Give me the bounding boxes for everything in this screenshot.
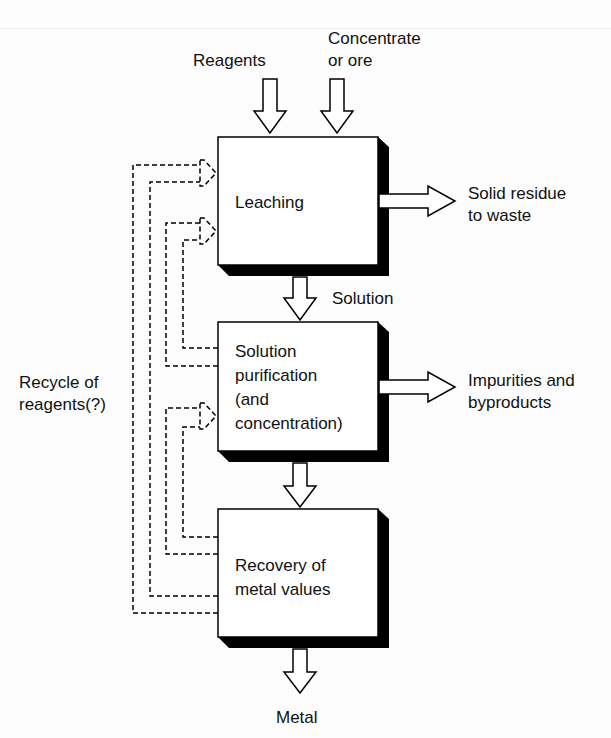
solution-flow-label: Solution [332, 288, 393, 309]
recycle-line-6 [183, 427, 218, 537]
impurities-arrow-icon [379, 372, 455, 402]
concentrate-arrow-icon [321, 79, 353, 133]
recovery-box-label-line2: metal values [235, 578, 330, 602]
recycle-line-4 [183, 240, 218, 348]
recycle-line-3 [166, 223, 218, 366]
purified-solution-arrow-icon [284, 463, 316, 507]
concentrate-label-line1: Concentrate [328, 28, 421, 49]
reagents-arrow-icon [254, 79, 286, 133]
purification-box-label-line4: concentration) [235, 412, 343, 436]
solid-residue-label-line2: to waste [468, 205, 531, 226]
recycle-arrowhead-1-icon [200, 160, 216, 186]
reagents-label: Reagents [193, 50, 266, 71]
recycle-arrowhead-2-icon [200, 218, 216, 244]
recycle-label-line2: reagents(?) [19, 394, 106, 415]
recycle-label-line1: Recycle of [19, 372, 98, 393]
recycle-line-5 [166, 408, 218, 554]
metal-arrow-icon [284, 649, 316, 693]
purification-box-label-line3: (and [235, 388, 269, 412]
recycle-arrowhead-3-icon [200, 403, 216, 429]
recycle-line-1 [133, 165, 218, 613]
purification-box-label-line2: purification [235, 364, 317, 388]
impurities-label-line1: Impurities and [468, 370, 575, 391]
purification-box-label-line1: Solution [235, 340, 296, 364]
recovery-box-label-line1: Recovery of [235, 554, 326, 578]
impurities-label-line2: byproducts [468, 392, 551, 413]
solid-residue-label-line1: Solid residue [468, 183, 566, 204]
recycle-lines [133, 160, 218, 613]
solution-arrow-icon [284, 277, 316, 320]
concentrate-label-line2: or ore [328, 50, 372, 71]
metal-label: Metal [276, 707, 318, 728]
solid-residue-arrow-icon [379, 186, 455, 216]
recycle-line-2 [150, 182, 218, 596]
leaching-box-label: Leaching [235, 191, 304, 215]
